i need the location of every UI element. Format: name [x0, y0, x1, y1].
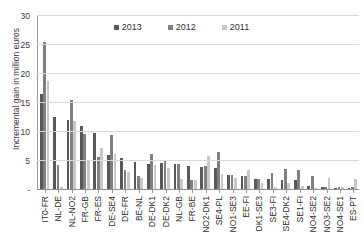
bar-2011-NL-GB[interactable] [180, 179, 183, 189]
bar-2011-SE4-DK2[interactable] [287, 183, 290, 189]
x-axis-label: BE-NL [134, 196, 144, 221]
x-axis-label: NL-NO2 [67, 196, 77, 227]
bar-2011-SE4-PL[interactable] [221, 174, 224, 189]
bar-2012-NO3-SE2[interactable] [324, 187, 327, 189]
x-axis-label-cell: IT0-FR [38, 194, 51, 250]
grid-line [37, 131, 359, 132]
x-axis-label: SE4-DK2 [281, 196, 291, 231]
x-axis-label-cell: NL-NO2 [65, 194, 78, 250]
x-axis-label-cell: DE-DK1 [145, 194, 158, 250]
bar-2012-FR-ES[interactable] [97, 157, 100, 189]
bar-2012-NL-DE[interactable] [57, 165, 60, 189]
x-axis-label: DE-SE4 [107, 196, 117, 227]
bar-2013-DE-DK2[interactable] [160, 163, 163, 189]
x-axis-label: NL-GB [174, 196, 184, 222]
bar-2011-IT0-FR[interactable] [47, 81, 50, 189]
bar-2012-NL-GB[interactable] [177, 164, 180, 189]
bar-2013-FR-BE[interactable] [187, 166, 190, 189]
bar-2011-EE-FI[interactable] [247, 170, 250, 189]
bar-2013-NO2-DK1[interactable] [200, 167, 203, 189]
x-axis-label-cell: FR-GB [78, 194, 91, 250]
bar-2011-DE-FR[interactable] [127, 172, 130, 189]
bar-2013-SE4-DK2[interactable] [281, 180, 284, 189]
bar-2013-NO4-SE1[interactable] [334, 188, 337, 189]
bar-2013-NO4-SE2[interactable] [307, 186, 310, 189]
bar-2011-BE-NL[interactable] [140, 178, 143, 189]
bar-2013-IT0-FR[interactable] [40, 94, 43, 189]
bar-2013-SE1-FI[interactable] [294, 180, 297, 189]
x-axis-label: DE-DK1 [147, 196, 157, 227]
y-axis-tick-label: 5 [0, 156, 30, 166]
x-axis-label-cell: EE-FI [239, 194, 252, 250]
bar-2011-DE-DK1[interactable] [154, 165, 157, 189]
x-axis-label: FR-GB [80, 196, 90, 222]
bar-chart: Incremental gain in million euros -51015… [0, 0, 363, 250]
bar-2013-ES-PT[interactable] [348, 188, 351, 189]
bar-2012-NO4-SE2[interactable] [311, 176, 314, 189]
grid-line [37, 102, 359, 103]
bar-2012-IT0-FR[interactable] [43, 42, 46, 189]
plot-area [37, 16, 359, 190]
x-axis-label-cell: BE-NL [132, 194, 145, 250]
bar-2011-DE-DK2[interactable] [167, 168, 170, 189]
bar-2013-NL-GB[interactable] [174, 164, 177, 189]
bar-2011-DK1-SE3[interactable] [261, 183, 264, 189]
bar-2013-SE4-PL[interactable] [214, 168, 217, 189]
bar-2013-NO3-SE2[interactable] [321, 187, 324, 189]
bar-2013-EE-FI[interactable] [241, 176, 244, 189]
bar-2012-DK1-SE3[interactable] [257, 179, 260, 189]
bar-2012-FR-GB[interactable] [83, 134, 86, 189]
x-axis-label: NL-DE [53, 196, 63, 222]
bar-2012-EE-FI[interactable] [244, 176, 247, 189]
x-axis-label: NO2-DK1 [201, 196, 211, 233]
x-axis-label-cell: SE3-FI [266, 194, 279, 250]
bar-2012-DE-DK2[interactable] [164, 161, 167, 189]
bar-2013-DK1-SE3[interactable] [254, 179, 257, 189]
bar-2012-SE1-FI[interactable] [297, 170, 300, 189]
bar-2013-SE3-FI[interactable] [267, 179, 270, 189]
bar-2012-ES-PT[interactable] [351, 187, 354, 189]
bar-2012-SE4-PL[interactable] [217, 152, 220, 189]
bar-2012-NO2-DK1[interactable] [204, 166, 207, 189]
x-axis-label: FR-BE [187, 196, 197, 222]
bar-2013-FR-GB[interactable] [80, 126, 83, 189]
bar-2011-SE1-FI[interactable] [301, 186, 304, 189]
x-axis-label-cell: SE1-FI [293, 194, 306, 250]
bar-2011-NO3-SE2[interactable] [328, 178, 331, 189]
bar-2013-DE-FR[interactable] [120, 158, 123, 189]
bar-2011-FR-GB[interactable] [87, 160, 90, 189]
x-axis-label-cell: FR-BE [186, 194, 199, 250]
x-axis-label-cell: NO4-SE1 [333, 194, 346, 250]
bar-2012-SE4-DK2[interactable] [284, 169, 287, 189]
bar-2011-NO1-SE3[interactable] [234, 178, 237, 189]
x-axis-label: IT0-FR [40, 196, 50, 222]
bar-2011-NL-DE[interactable] [60, 187, 63, 189]
bar-2011-FR-BE[interactable] [194, 180, 197, 189]
x-axis-label: DK1-SE3 [254, 196, 264, 231]
bar-2011-SE3-FI[interactable] [274, 187, 277, 189]
y-axis-tick-label: 25 [0, 40, 30, 50]
x-axis-label-cell: NL-DE [51, 194, 64, 250]
bar-2013-NL-DE[interactable] [53, 117, 56, 190]
x-axis-label-cell: DE-FR [119, 194, 132, 250]
bar-2013-BE-NL[interactable] [134, 162, 137, 189]
y-axis-tick-label: 15 [0, 98, 30, 108]
bar-2011-NO4-SE2[interactable] [314, 188, 317, 189]
bar-2012-NO4-SE1[interactable] [338, 187, 341, 189]
bar-2012-DE-SE4[interactable] [110, 135, 113, 189]
bar-2012-FR-BE[interactable] [190, 180, 193, 189]
bar-2013-DE-DK1[interactable] [147, 164, 150, 189]
bar-2012-SE3-FI[interactable] [271, 173, 274, 189]
bar-2012-NO1-SE3[interactable] [231, 175, 234, 189]
x-axis-label: NO1-SE3 [228, 196, 238, 232]
x-axis-label-cell: NO2-DK1 [199, 194, 212, 250]
bar-2011-ES-PT[interactable] [354, 179, 357, 189]
bar-2012-NL-NO2[interactable] [70, 100, 73, 189]
bar-2011-NO4-SE1[interactable] [341, 187, 344, 189]
bar-2011-FR-ES[interactable] [100, 148, 103, 189]
grid-line [37, 160, 359, 161]
bar-2012-DE-FR[interactable] [124, 170, 127, 189]
bar-2013-NO1-SE3[interactable] [227, 175, 230, 189]
bar-2012-BE-NL[interactable] [137, 176, 140, 189]
x-axis-label-cell: NO3-SE2 [320, 194, 333, 250]
